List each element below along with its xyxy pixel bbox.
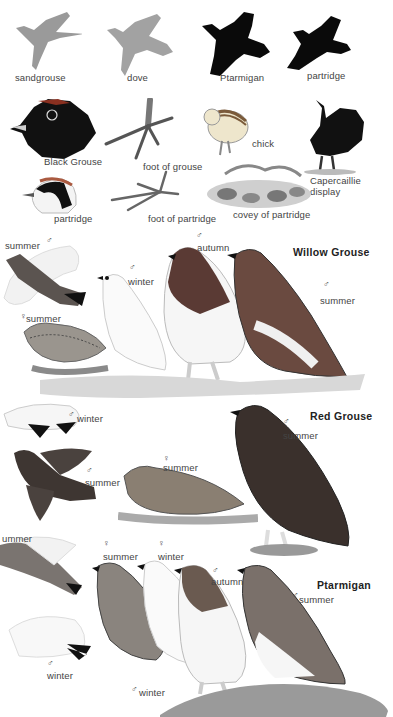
dove-silhouette <box>105 8 175 78</box>
wg-male-summer-label: summer <box>320 295 355 306</box>
ptarmigan-silhouette-label: Ptarmigan <box>220 72 264 83</box>
rg-male-summer-flight-label: summer <box>85 477 120 488</box>
willow-grouse-male-summer-flight <box>0 240 90 320</box>
wg-female-summer-label: summer <box>26 313 61 324</box>
male-symbol: ♂ <box>129 262 136 272</box>
capercaillie-label-2: display <box>310 186 340 197</box>
ptarmigan-silhouette <box>200 8 272 78</box>
partridge-head <box>18 175 78 215</box>
female-symbol: ♀ <box>158 538 165 548</box>
covey-label: covey of partridge <box>233 209 310 220</box>
sandgrouse-silhouette <box>12 8 82 73</box>
ptarmigan-rock <box>160 675 390 717</box>
pt-summer-flight-label: ummer <box>2 533 32 544</box>
red-grouse-male-summer <box>228 400 358 560</box>
partridge-head-label: partridge <box>54 213 92 224</box>
sandgrouse-label: sandgrouse <box>15 72 66 83</box>
pt-female-winter-label: winter <box>158 551 184 562</box>
foot-of-partridge-label: foot of partridge <box>148 213 216 224</box>
male-symbol: ♂ <box>68 409 75 419</box>
male-symbol: ♂ <box>283 416 290 426</box>
rg-male-summer-label: summer <box>283 430 318 441</box>
female-symbol: ♀ <box>103 538 110 548</box>
ptarmigan-male-summer <box>235 562 350 692</box>
foot-of-partridge <box>108 170 183 215</box>
rg-female-summer-label: summer <box>163 462 198 473</box>
male-symbol: ♂ <box>292 590 299 600</box>
male-symbol: ♂ <box>46 235 53 245</box>
chick-label: chick <box>252 138 274 149</box>
foot-of-grouse <box>100 98 182 163</box>
wg-winter-flight-label: winter <box>77 413 103 424</box>
wg-male-winter-label: winter <box>128 276 154 287</box>
male-symbol: ♂ <box>131 684 138 694</box>
pt-male-summer-label: summer <box>299 594 334 605</box>
male-symbol: ♂ <box>323 279 330 289</box>
wg-summer-flight-label: summer <box>5 240 40 251</box>
male-symbol: ♂ <box>86 465 93 475</box>
capercaillie-label: Capercaillie <box>310 175 361 186</box>
partridge-silhouette-label: partridge <box>307 70 345 81</box>
chick-illustration <box>200 103 250 158</box>
pt-winter-flight-label: winter <box>47 670 73 681</box>
partridge-silhouette <box>285 8 353 73</box>
male-symbol: ♂ <box>47 658 54 668</box>
ptarmigan-summer-flight <box>0 535 85 600</box>
black-grouse-label: Black Grouse <box>44 156 102 167</box>
male-symbol: ♂ <box>212 565 219 575</box>
male-symbol: ♂ <box>196 230 203 240</box>
dove-label: dove <box>127 72 148 83</box>
covey-of-partridge <box>205 160 313 210</box>
pt-female-summer-label: summer <box>103 551 138 562</box>
black-grouse-head <box>8 95 98 160</box>
